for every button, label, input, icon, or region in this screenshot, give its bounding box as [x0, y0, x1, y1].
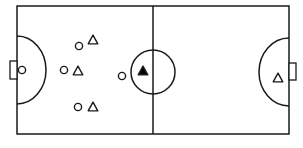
team-triangle-players [73, 35, 283, 111]
triangle-player-attacker-bottom [88, 102, 98, 111]
right-goal [289, 63, 296, 80]
circle-player-forward [118, 72, 125, 79]
triangle-player-attacker-middle [73, 66, 83, 75]
circle-player-defender-middle [60, 66, 67, 73]
circle-player-defender-bottom [74, 103, 81, 110]
futsal-court [0, 0, 303, 148]
triangle-player-attacker-top [88, 35, 98, 44]
right-penalty-area [259, 38, 289, 106]
team-circle-players [18, 42, 125, 110]
left-goal [10, 61, 17, 79]
triangle-player-goalkeeper [273, 73, 283, 82]
circle-player-goalkeeper [18, 66, 25, 73]
triangle-player-ball-holder [138, 66, 148, 75]
circle-player-defender-top [75, 42, 82, 49]
